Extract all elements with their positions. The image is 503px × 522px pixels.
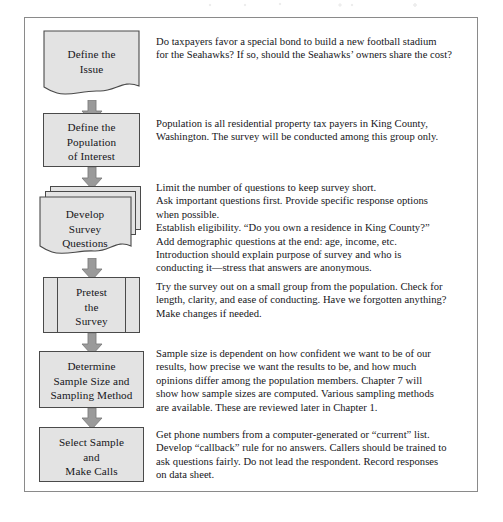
flow-node-define-the-issue[interactable]: Define the Issue xyxy=(43,30,140,100)
flowchart-exhibit-frame: Define the Issue Define the Population o… xyxy=(24,17,478,492)
step-description-develop-survey-questions: Limit the number of questions to keep su… xyxy=(156,181,472,275)
flow-node-label: Define the Issue xyxy=(43,47,140,76)
flow-node-pretest-the-survey[interactable]: Pretest the Survey xyxy=(43,277,140,333)
flow-node-select-sample-and-make-calls[interactable]: Select Sample and Make Calls xyxy=(39,427,144,482)
step-description-pretest-the-survey: Try the survey out on a small group from… xyxy=(156,280,472,320)
flow-node-label: Define the Population of Interest xyxy=(44,120,139,164)
flow-node-define-the-population-of-interest[interactable]: Define the Population of Interest xyxy=(43,113,140,167)
flow-node-label: Pretest the Survey xyxy=(44,285,139,329)
flow-node-label: Develop Survey Questions xyxy=(39,207,131,251)
step-description-define-the-issue: Do taxpayers favor a special bond to bui… xyxy=(156,35,472,62)
flow-node-develop-survey-questions[interactable]: Develop Survey Questions xyxy=(39,186,145,261)
scan-artifact xyxy=(200,2,460,8)
step-description-select-sample-and-make-calls: Get phone numbers from a computer-genera… xyxy=(156,428,472,482)
flow-node-label: Determine Sample Size and Sampling Metho… xyxy=(40,359,143,403)
step-description-determine-sample-size-and-sampling-method: Sample size is dependent on how confiden… xyxy=(156,347,472,414)
step-description-define-the-population-of-interest: Population is all residential property t… xyxy=(156,117,472,144)
flow-node-determine-sample-size-and-sampling-method[interactable]: Determine Sample Size and Sampling Metho… xyxy=(39,351,144,408)
flow-node-label: Select Sample and Make Calls xyxy=(40,435,143,479)
